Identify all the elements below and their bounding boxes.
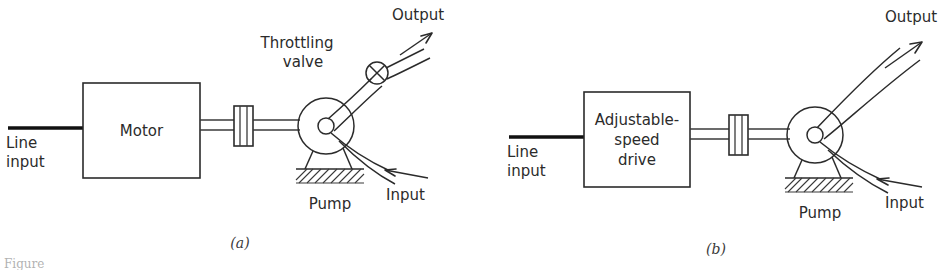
discharge-pipe-lower-a: [334, 86, 382, 131]
coupling-a: [234, 106, 253, 146]
output-arrow-shaft-b: [885, 42, 922, 68]
ground-hatch-a: [296, 169, 364, 183]
suction-pipe-lower-b: [828, 150, 888, 193]
coupling-b: [729, 115, 748, 155]
line-input-label-line1-b: Line: [507, 143, 538, 161]
figure-svg: Motor: [0, 0, 948, 270]
throttling-valve-label-line2-a: valve: [283, 53, 323, 71]
suction-pipe-upper-b: [820, 142, 882, 180]
panel-sublabel-a: (a): [230, 235, 249, 251]
asd-block-label-line2-b: speed: [614, 131, 659, 149]
asd-block-label-line3-b: drive: [618, 151, 656, 169]
pump-foot-left-a: [305, 151, 313, 169]
output-arrow-shaft-a: [400, 33, 432, 55]
pump-label-a: Pump: [309, 195, 351, 213]
line-input-label-line1-a: Line: [6, 134, 37, 152]
output-arrowhead-a: [421, 33, 432, 43]
panel-sublabel-b: (b): [706, 241, 726, 257]
panel-b: Adjustable- speed drive: [507, 8, 937, 257]
motor-block-label-a: Motor: [120, 122, 164, 140]
line-input-label-line2-b: input: [507, 162, 546, 180]
output-label-b: Output: [885, 8, 937, 26]
output-arrowhead-b: [910, 42, 922, 53]
pump-foot-left-b: [794, 160, 802, 178]
figure-caption-fragment: Figure: [4, 257, 44, 270]
output-pipe-lower-a: [387, 58, 430, 79]
pump-body-b: [787, 107, 843, 163]
panel-a: Motor: [6, 6, 444, 251]
input-label-a: Input: [386, 186, 425, 204]
pump-hub-b: [807, 127, 823, 143]
discharge-pipe-upper-b: [817, 48, 900, 128]
asd-block-label-line1-b: Adjustable-: [595, 111, 679, 129]
output-label-a: Output: [392, 6, 444, 24]
line-input-label-line2-a: input: [6, 153, 45, 171]
pump-label-b: Pump: [799, 204, 841, 222]
ground-hatch-b: [785, 178, 853, 192]
throttling-valve-label-line1-a: Throttling: [260, 34, 334, 52]
input-label-b: Input: [885, 194, 924, 212]
pump-hub-a: [318, 118, 334, 134]
suction-pipe-lower-a: [339, 141, 395, 184]
suction-pipe-upper-a: [331, 133, 390, 171]
figure-canvas: Motor: [0, 0, 948, 270]
